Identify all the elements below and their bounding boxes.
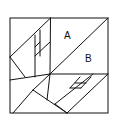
square-dissection-figure xyxy=(0,0,115,124)
top-left-region xyxy=(10,18,51,80)
top-right-region xyxy=(50,18,108,74)
label-a: A xyxy=(64,31,71,41)
bottom-region xyxy=(13,74,108,113)
label-b: B xyxy=(85,54,92,64)
